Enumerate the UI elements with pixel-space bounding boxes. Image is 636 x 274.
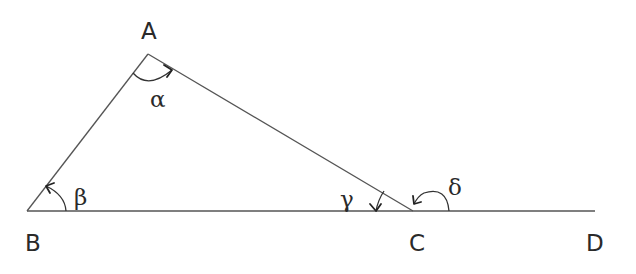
- angle-label-delta: δ: [448, 176, 462, 199]
- angle-delta-arc: [413, 191, 449, 211]
- angle-label-beta: β: [74, 186, 87, 209]
- vertex-label-c: C: [409, 232, 425, 255]
- vertex-label-b: B: [25, 232, 41, 255]
- angle-gamma-arc: [370, 191, 384, 211]
- angle-beta-arc: [46, 183, 66, 211]
- segment-ab: [27, 54, 148, 211]
- angle-label-alpha: α: [150, 88, 166, 111]
- angle-alpha-arc: [133, 65, 172, 81]
- triangle-diagram: A B C D α β γ δ: [0, 0, 636, 274]
- vertex-label-d: D: [586, 232, 604, 255]
- segment-ac: [148, 54, 413, 211]
- vertex-label-a: A: [141, 20, 157, 43]
- angle-label-gamma: γ: [340, 188, 354, 211]
- diagram-canvas: [0, 0, 636, 274]
